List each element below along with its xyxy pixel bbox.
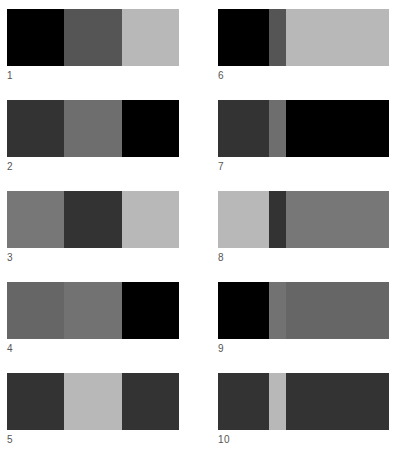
swatch-segment: [269, 9, 286, 66]
swatch-strip: [7, 9, 179, 66]
panel-label: 4: [7, 344, 179, 354]
swatch-segment: [269, 373, 286, 430]
swatch-segment: [64, 100, 122, 157]
swatch-strip: [7, 191, 179, 248]
panel-label: 2: [7, 162, 179, 172]
swatch-segment: [218, 373, 269, 430]
swatch-segment: [122, 282, 179, 339]
swatch-segment: [269, 282, 286, 339]
swatch-segment: [218, 100, 269, 157]
swatch-segment: [122, 9, 179, 66]
panel-label: 8: [218, 253, 389, 263]
swatch-panel-9: 9: [218, 282, 389, 354]
swatch-segment: [122, 100, 179, 157]
panel-label: 10: [218, 435, 389, 445]
swatch-segment: [218, 9, 269, 66]
swatch-segment: [286, 100, 389, 157]
panel-label: 6: [218, 71, 389, 81]
swatch-segment: [122, 373, 179, 430]
swatch-strip: [218, 100, 389, 157]
swatch-strip: [218, 373, 389, 430]
swatch-segment: [7, 282, 64, 339]
swatch-segment: [269, 100, 286, 157]
swatch-strip: [218, 191, 389, 248]
swatch-segment: [286, 9, 389, 66]
swatch-segment: [122, 191, 179, 248]
swatch-panel-4: 4: [7, 282, 179, 354]
swatch-strip: [7, 100, 179, 157]
swatch-segment: [218, 191, 269, 248]
swatch-segment: [64, 9, 122, 66]
panel-label: 1: [7, 71, 179, 81]
swatch-panel-2: 2: [7, 100, 179, 172]
swatch-strip: [7, 282, 179, 339]
swatch-segment: [286, 373, 389, 430]
swatch-panel-6: 6: [218, 9, 389, 81]
panel-label: 9: [218, 344, 389, 354]
swatch-segment: [286, 191, 389, 248]
swatch-segment: [64, 282, 122, 339]
swatch-strip: [218, 9, 389, 66]
swatch-segment: [64, 373, 122, 430]
swatch-panel-10: 10: [218, 373, 389, 445]
swatch-panel-3: 3: [7, 191, 179, 263]
swatch-strip: [7, 373, 179, 430]
swatch-strip: [218, 282, 389, 339]
panel-label: 5: [7, 435, 179, 445]
swatch-panel-1: 1: [7, 9, 179, 81]
swatch-segment: [218, 282, 269, 339]
swatch-segment: [7, 191, 64, 248]
swatch-segment: [7, 373, 64, 430]
swatch-segment: [64, 191, 122, 248]
swatch-panel-8: 8: [218, 191, 389, 263]
panel-label: 3: [7, 253, 179, 263]
swatch-segment: [286, 282, 389, 339]
panel-label: 7: [218, 162, 389, 172]
swatch-segment: [7, 9, 64, 66]
swatch-panel-7: 7: [218, 100, 389, 172]
swatch-panel-5: 5: [7, 373, 179, 445]
swatch-segment: [7, 100, 64, 157]
swatch-segment: [269, 191, 286, 248]
